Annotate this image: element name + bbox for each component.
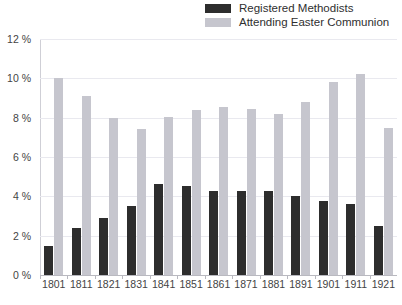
bar [319, 201, 328, 275]
x-axis-tick-label: 1821 [95, 278, 122, 290]
bar [209, 191, 218, 275]
legend-item-attending-easter-communion: Attending Easter Communion [205, 16, 389, 28]
bar [82, 96, 91, 275]
y-axis-tick-label: 8 % [0, 113, 31, 123]
bar [109, 118, 118, 275]
x-axis-tick-label: 1881 [260, 278, 287, 290]
x-axis-tick-label: 1901 [315, 278, 342, 290]
bar [182, 186, 191, 275]
bar [329, 82, 338, 275]
bar-group [95, 39, 122, 275]
bar [346, 204, 355, 275]
legend-swatch-registered-methodists [205, 4, 231, 13]
chart-legend: Registered Methodists Attending Easter C… [205, 2, 389, 28]
bar [384, 128, 393, 276]
bar [274, 114, 283, 275]
x-axis-tick-label: 1801 [40, 278, 67, 290]
bar-group [177, 39, 204, 275]
x-axis-tick-label: 1921 [370, 278, 397, 290]
bar-group [315, 39, 342, 275]
bar [164, 117, 173, 275]
x-axis-tick-label: 1811 [67, 278, 94, 290]
legend-label-attending-easter-communion: Attending Easter Communion [239, 16, 389, 28]
y-axis-tick-label: 10 % [0, 73, 31, 83]
bar [291, 196, 300, 275]
y-axis-tick-label: 4 % [0, 191, 31, 201]
x-axis-tick-label: 1911 [342, 278, 369, 290]
bar-group [260, 39, 287, 275]
bar [54, 78, 63, 275]
bar [154, 184, 163, 275]
bar [374, 226, 383, 275]
y-axis-tick-label: 2 % [0, 231, 31, 241]
x-axis-tick-label: 1871 [232, 278, 259, 290]
bar [237, 191, 246, 275]
bar [247, 109, 256, 275]
legend-label-registered-methodists: Registered Methodists [239, 2, 353, 14]
x-axis-tick-label: 1891 [287, 278, 314, 290]
bar [137, 129, 146, 275]
bar [44, 246, 53, 276]
bar [127, 206, 136, 275]
bar-group [150, 39, 177, 275]
legend-item-registered-methodists: Registered Methodists [205, 2, 389, 14]
x-axis-tick-labels: 1801181118211831184118511861187118811891… [40, 278, 397, 290]
y-axis-tick-label: 12 % [0, 34, 31, 44]
bar-group [40, 39, 67, 275]
bar [356, 74, 365, 275]
bar-group [342, 39, 369, 275]
bar-group [370, 39, 397, 275]
bar [219, 107, 228, 275]
y-axis-tick-label: 0 % [0, 270, 31, 280]
bar-groups [40, 39, 397, 275]
bar-group [287, 39, 314, 275]
bar-group [122, 39, 149, 275]
y-axis-tick-label: 6 % [0, 152, 31, 162]
bar [99, 218, 108, 275]
bar-group [205, 39, 232, 275]
bar-group [232, 39, 259, 275]
x-axis-tick-label: 1861 [205, 278, 232, 290]
bar-chart: Registered Methodists Attending Easter C… [0, 0, 402, 305]
bar [264, 191, 273, 275]
plot-area: 0 %2 %4 %6 %8 %10 %12 % [40, 39, 397, 275]
bar [301, 102, 310, 275]
legend-swatch-attending-easter-communion [205, 18, 231, 27]
bar [192, 110, 201, 275]
x-axis-tick-label: 1831 [122, 278, 149, 290]
bar-group [67, 39, 94, 275]
x-axis-tick-label: 1851 [177, 278, 204, 290]
bar [72, 228, 81, 275]
x-axis-tick-label: 1841 [150, 278, 177, 290]
